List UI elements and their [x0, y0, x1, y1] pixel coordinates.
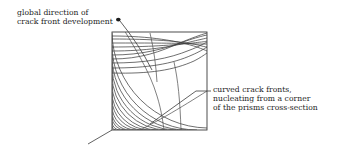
annotation-global-direction: global direction of crack front developm…	[17, 8, 113, 26]
annotation-curved-fronts-line-3: of the prisms cross-section	[213, 103, 318, 112]
annotation-curved-fronts-line-1: curved crack fronts,	[213, 85, 318, 94]
annotation-global-direction-line-2: crack front development	[17, 17, 113, 26]
arrowhead-icon	[116, 18, 121, 22]
annotation-global-direction-line-1: global direction of	[17, 8, 113, 17]
figure-root: global direction of crack front developm…	[0, 0, 338, 147]
annotation-curved-fronts-line-2: nucleating from a corner	[213, 94, 318, 103]
nucleation-corner-tail	[88, 130, 112, 144]
transition-crack-fronts	[112, 33, 207, 59]
annotation-curved-fronts: curved crack fronts, nucleating from a c…	[213, 85, 318, 113]
